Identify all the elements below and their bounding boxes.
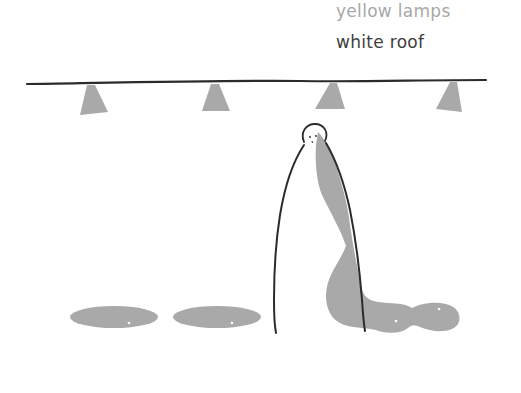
scene-illustration — [0, 0, 521, 393]
lamps — [80, 82, 462, 115]
figure-shadow — [316, 132, 460, 333]
figure-eye-left — [309, 136, 311, 138]
figure-eye-right — [315, 135, 317, 137]
figure-body-left — [274, 145, 304, 333]
shadow-highlight-1 — [395, 320, 398, 323]
floor-shadow-1 — [70, 306, 158, 328]
lamp-1 — [80, 85, 108, 115]
figure-mouth — [312, 141, 313, 143]
roof-line — [27, 80, 486, 84]
lamp-3 — [315, 83, 345, 109]
lamp-2 — [202, 84, 230, 111]
floor-shadows — [70, 306, 261, 328]
shadow-highlight-2 — [438, 308, 441, 311]
floor-shadow-2 — [173, 306, 261, 328]
lamp-4 — [436, 82, 462, 112]
floor-shadow-1-highlight — [128, 322, 131, 325]
floor-shadow-2-highlight — [231, 322, 234, 325]
